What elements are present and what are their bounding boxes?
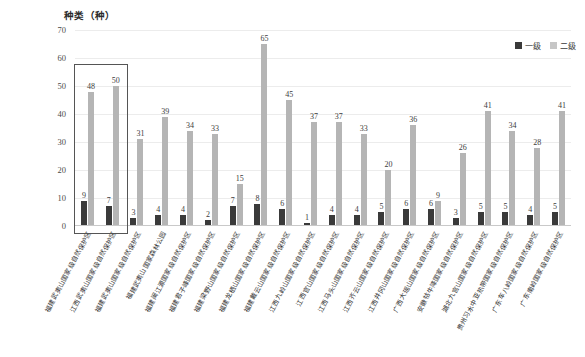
bar-value-label: 6 <box>280 200 284 208</box>
bar-value-label: 6 <box>404 200 408 208</box>
bar-一级[interactable]: 6 <box>403 209 409 226</box>
bar-value-label: 15 <box>236 175 244 183</box>
bar-二级[interactable]: 37 <box>311 122 317 226</box>
bar-value-label: 4 <box>330 206 334 214</box>
bar-一级[interactable]: 5 <box>502 212 508 226</box>
bar-value-label: 20 <box>384 161 392 169</box>
bar-value-label: 8 <box>255 195 259 203</box>
bar-二级[interactable]: 39 <box>162 117 168 226</box>
bar-group: 534 <box>497 30 522 226</box>
x-axis-label-slot: 广东南岭国家级自然保护区 <box>546 228 571 356</box>
x-axis-line <box>75 225 571 226</box>
bar-一级[interactable]: 5 <box>478 212 484 226</box>
bar-value-label: 5 <box>503 203 507 211</box>
bar-group: 69 <box>422 30 447 226</box>
bar-二级[interactable]: 65 <box>261 44 267 226</box>
bar-二级[interactable]: 33 <box>361 134 367 226</box>
bar-group: 541 <box>472 30 497 226</box>
bar-一级[interactable]: 7 <box>230 206 236 226</box>
bar-value-label: 3 <box>131 209 135 217</box>
bar-value-label: 34 <box>508 122 516 130</box>
bar-group: 233 <box>199 30 224 226</box>
bar-value-label: 33 <box>211 125 219 133</box>
bar-group: 750 <box>100 30 125 226</box>
bar-groups: 9487503314394342337158656451374374335206… <box>75 30 571 226</box>
y-axis-tick-label: 0 <box>62 221 66 231</box>
bar-二级[interactable]: 50 <box>113 86 119 226</box>
legend-item-level2: 二级 <box>550 40 576 51</box>
bar-value-label: 41 <box>558 102 566 110</box>
y-axis-tick-label: 40 <box>58 109 67 119</box>
y-axis-tick-label: 70 <box>58 25 67 35</box>
bar-value-label: 33 <box>360 125 368 133</box>
bar-二级[interactable]: 37 <box>336 122 342 226</box>
bar-group: 437 <box>323 30 348 226</box>
bar-value-label: 50 <box>112 77 120 85</box>
bar-value-label: 4 <box>528 206 532 214</box>
bar-value-label: 36 <box>409 116 417 124</box>
legend-label-level1: 一级 <box>525 40 541 51</box>
bar-一级[interactable]: 5 <box>552 212 558 226</box>
bar-二级[interactable]: 48 <box>88 92 94 226</box>
bar-二级[interactable]: 33 <box>212 134 218 226</box>
bar-value-label: 5 <box>553 203 557 211</box>
bar-group: 137 <box>298 30 323 226</box>
bar-value-label: 9 <box>436 192 440 200</box>
bar-二级[interactable]: 15 <box>237 184 243 226</box>
bar-value-label: 4 <box>181 206 185 214</box>
plot-area: 9487503314394342337158656451374374335206… <box>75 30 571 226</box>
bar-value-label: 34 <box>186 122 194 130</box>
bar-value-label: 37 <box>335 113 343 121</box>
bar-二级[interactable]: 45 <box>286 100 292 226</box>
bar-二级[interactable]: 28 <box>534 148 540 226</box>
bar-一级[interactable]: 5 <box>378 212 384 226</box>
y-axis-tick-label: 30 <box>58 137 67 147</box>
bar-value-label: 26 <box>459 144 467 152</box>
bar-一级[interactable]: 6 <box>279 209 285 226</box>
bar-value-label: 28 <box>533 139 541 147</box>
legend-swatch-level2-icon <box>550 42 557 49</box>
bar-value-label: 65 <box>260 35 268 43</box>
bar-group: 428 <box>521 30 546 226</box>
bar-value-label: 7 <box>231 197 235 205</box>
legend-label-level2: 二级 <box>560 40 576 51</box>
x-axis-labels: 福建武夷山国家级自然保护区江西武夷山国家级自然保护区福建武夷山国家级自然保护区福… <box>75 228 571 356</box>
bar-一级[interactable]: 7 <box>106 206 112 226</box>
bar-group: 439 <box>149 30 174 226</box>
bar-一级[interactable]: 9 <box>81 201 87 226</box>
bar-二级[interactable]: 9 <box>435 201 441 226</box>
bar-value-label: 9 <box>82 192 86 200</box>
bar-二级[interactable]: 34 <box>187 131 193 226</box>
bar-二级[interactable]: 20 <box>385 170 391 226</box>
bar-group: 520 <box>373 30 398 226</box>
bar-group: 645 <box>273 30 298 226</box>
bar-value-label: 7 <box>107 197 111 205</box>
bar-group: 331 <box>125 30 150 226</box>
bar-value-label: 39 <box>161 108 169 116</box>
bar-value-label: 48 <box>87 83 95 91</box>
bar-group: 433 <box>348 30 373 226</box>
legend-swatch-level1-icon <box>515 42 522 49</box>
legend-item-level1: 一级 <box>515 40 541 51</box>
bar-一级[interactable]: 6 <box>428 209 434 226</box>
bar-二级[interactable]: 41 <box>485 111 491 226</box>
bar-二级[interactable]: 36 <box>410 125 416 226</box>
bar-value-label: 31 <box>136 130 144 138</box>
bar-group: 541 <box>546 30 571 226</box>
bar-chart: 种类（种） 706050403020100 948750331439434233… <box>0 0 585 357</box>
y-axis-tick-label: 50 <box>58 81 67 91</box>
bar-group: 948 <box>75 30 100 226</box>
bar-一级[interactable]: 8 <box>254 204 260 226</box>
x-axis-label: 福建武夷山国家级自然保护区 <box>45 230 94 313</box>
bar-value-label: 4 <box>156 206 160 214</box>
bar-value-label: 5 <box>479 203 483 211</box>
bar-value-label: 5 <box>379 203 383 211</box>
bar-二级[interactable]: 26 <box>460 153 466 226</box>
bar-value-label: 1 <box>305 214 309 222</box>
bar-二级[interactable]: 34 <box>509 131 515 226</box>
bar-group: 434 <box>174 30 199 226</box>
bar-group: 326 <box>447 30 472 226</box>
y-axis-tick-label: 10 <box>58 193 67 203</box>
bar-二级[interactable]: 31 <box>137 139 143 226</box>
bar-二级[interactable]: 41 <box>559 111 565 226</box>
